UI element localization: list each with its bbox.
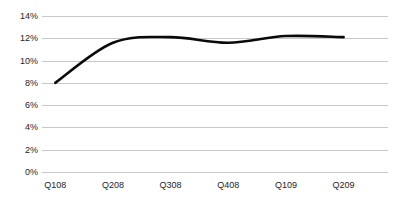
gridline-8pct xyxy=(42,83,388,84)
y-tick-label: 10% xyxy=(0,56,38,66)
y-tick-label: 2% xyxy=(0,145,38,155)
gridline-0pct xyxy=(42,172,388,173)
x-tick-label-q208: Q208 xyxy=(83,179,143,191)
y-tick-label: 4% xyxy=(0,122,38,132)
line-chart: 0%2%4%6%8%10%12%14% Q108Q208Q308Q408Q109… xyxy=(0,0,397,204)
gridline-14pct xyxy=(42,16,388,17)
gridline-4pct xyxy=(42,127,388,128)
gridline-10pct xyxy=(42,61,388,62)
y-tick-label: 14% xyxy=(0,11,38,21)
x-tick-label-q408: Q408 xyxy=(198,179,258,191)
y-tick-label: 12% xyxy=(0,33,38,43)
y-tick-label: 6% xyxy=(0,100,38,110)
plot-area xyxy=(42,16,388,172)
x-tick-label-q109: Q109 xyxy=(256,179,316,191)
y-tick-label: 0% xyxy=(0,167,38,177)
x-tick-label-q209: Q209 xyxy=(314,179,374,191)
y-axis: 0%2%4%6%8%10%12%14% xyxy=(0,0,38,204)
x-tick-label-q308: Q308 xyxy=(141,179,201,191)
x-tick-label-q108: Q108 xyxy=(25,179,85,191)
x-axis: Q108Q208Q308Q408Q109Q209 xyxy=(0,179,397,195)
gridline-12pct xyxy=(42,38,388,39)
gridline-2pct xyxy=(42,150,388,151)
gridline-6pct xyxy=(42,105,388,106)
y-tick-label: 8% xyxy=(0,78,38,88)
